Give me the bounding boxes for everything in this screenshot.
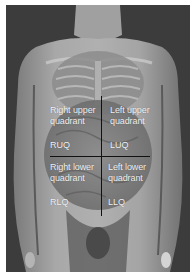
ruq-label-line2: quadrant	[50, 116, 85, 127]
llq-label-line2: quadrant	[108, 173, 143, 184]
rlq-label-line2: quadrant	[50, 173, 85, 184]
ruq-abbreviation: RUQ	[50, 140, 70, 151]
rlq-abbreviation: RLQ	[50, 197, 69, 208]
horizontal-umbilical-divider	[50, 156, 150, 157]
luq-label-line1: Left upper	[110, 105, 150, 116]
rlq-label-line1: Right lower	[50, 162, 94, 173]
torso-illustration	[6, 5, 190, 272]
llq-abbreviation: LLQ	[108, 197, 125, 208]
luq-label-line2: quadrant	[110, 116, 145, 127]
ruq-label-line1: Right upper	[50, 105, 95, 116]
anatomy-figure: Right upper quadrant RUQ Left upper quad…	[6, 5, 190, 272]
luq-abbreviation: LUQ	[110, 140, 129, 151]
llq-label-line1: Left lower	[108, 162, 146, 173]
